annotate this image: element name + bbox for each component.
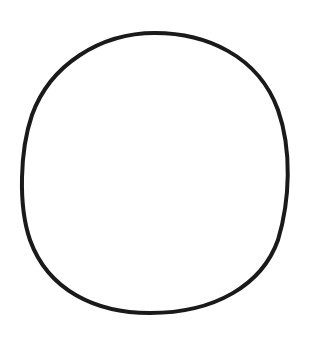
hand-drawn-circle [22,33,288,313]
drawing-canvas [0,0,313,340]
